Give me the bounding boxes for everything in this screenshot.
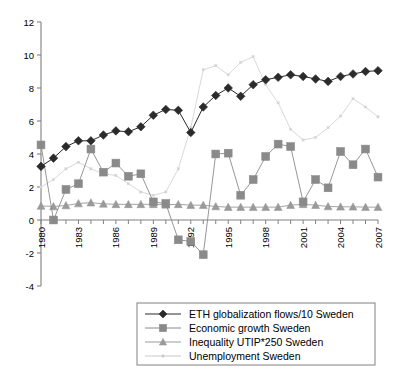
- data-point: [87, 137, 96, 146]
- data-point: [177, 168, 179, 170]
- x-tick-label: 2007: [373, 227, 384, 248]
- data-point: [274, 73, 283, 82]
- data-point: [314, 136, 316, 138]
- data-point: [274, 140, 282, 148]
- data-point: [327, 127, 329, 129]
- data-point: [286, 71, 295, 80]
- data-point: [324, 184, 332, 192]
- data-point: [224, 149, 232, 157]
- legend-item[interactable]: Unemployment Sweden: [145, 350, 301, 362]
- data-point: [115, 174, 117, 176]
- series-dot: [40, 56, 379, 197]
- data-point: [186, 128, 195, 137]
- data-point: [377, 116, 379, 118]
- x-tick-label: 1989: [148, 227, 159, 248]
- y-tick-label: 2: [29, 182, 34, 193]
- data-point: [224, 84, 233, 93]
- data-series-group: [37, 56, 383, 259]
- data-point: [212, 150, 220, 158]
- data-point: [240, 61, 242, 63]
- y-tick-label: 6: [29, 116, 34, 127]
- y-axis: 121086420-2-4: [23, 17, 41, 292]
- data-point: [374, 66, 383, 75]
- data-point: [87, 199, 95, 206]
- data-point: [261, 75, 270, 84]
- x-axis: 1980198319861989199219951998200120042007: [36, 220, 384, 248]
- data-point: [112, 127, 121, 136]
- legend-label: ETH globalization flows/10 Sweden: [189, 308, 354, 320]
- data-point: [336, 72, 345, 81]
- data-point: [349, 161, 357, 169]
- data-point: [149, 198, 157, 206]
- data-point: [324, 77, 333, 86]
- data-point: [52, 178, 54, 180]
- data-point: [374, 173, 382, 181]
- data-point: [127, 183, 129, 185]
- x-tick-label: 1998: [260, 227, 271, 248]
- data-point: [287, 143, 295, 151]
- legend-marker-square-icon: [159, 324, 166, 331]
- y-tick-label: 4: [29, 149, 34, 160]
- legend-marker-dot-icon: [162, 355, 164, 357]
- data-point: [252, 56, 254, 58]
- data-point: [50, 216, 58, 224]
- y-tick-label: -2: [26, 248, 34, 259]
- x-tick-label: 1983: [73, 227, 84, 248]
- data-point: [174, 236, 182, 244]
- data-point: [277, 102, 279, 104]
- data-point: [174, 106, 183, 115]
- data-point: [152, 194, 154, 196]
- data-point: [202, 69, 204, 71]
- data-point: [62, 186, 70, 194]
- data-point: [40, 186, 42, 188]
- data-point: [65, 168, 67, 170]
- data-point: [227, 74, 229, 76]
- x-tick-label: 1995: [223, 227, 234, 248]
- x-tick-label: 2001: [298, 227, 309, 248]
- data-point: [112, 159, 120, 167]
- data-point: [75, 180, 83, 188]
- data-point: [237, 191, 245, 199]
- data-point: [140, 191, 142, 193]
- y-tick-label: 10: [23, 50, 34, 61]
- data-point: [215, 65, 217, 67]
- series-square: [37, 140, 382, 258]
- data-point: [290, 128, 292, 130]
- data-point: [165, 191, 167, 193]
- data-point: [90, 168, 92, 170]
- y-tick-label: -4: [26, 281, 34, 292]
- chart-container: 121086420-2-4 19801983198619891992199519…: [0, 0, 403, 373]
- data-point: [99, 131, 108, 140]
- legend-label: Economic growth Sweden: [189, 322, 311, 334]
- data-point: [339, 115, 341, 117]
- data-point: [352, 98, 354, 100]
- y-tick-label: 0: [29, 215, 34, 226]
- data-point: [312, 176, 320, 184]
- legend-marker-diamond-icon: [159, 310, 167, 318]
- data-point: [74, 137, 83, 146]
- data-point: [162, 105, 171, 114]
- data-point: [362, 145, 370, 153]
- legend-item[interactable]: Economic growth Sweden: [145, 322, 311, 334]
- data-point: [364, 106, 366, 108]
- data-point: [302, 139, 304, 141]
- data-point: [311, 75, 320, 84]
- legend-item[interactable]: Inequality UTIP*250 Sweden: [145, 336, 323, 348]
- legend-label: Unemployment Sweden: [189, 350, 301, 362]
- data-point: [361, 67, 370, 76]
- data-point: [337, 148, 345, 156]
- data-point: [349, 70, 358, 79]
- x-tick-label: 1980: [36, 227, 47, 248]
- data-point: [162, 200, 170, 208]
- legend-item[interactable]: ETH globalization flows/10 Sweden: [145, 308, 354, 320]
- y-tick-label: 12: [23, 17, 34, 28]
- data-point: [187, 238, 195, 246]
- legend-label: Inequality UTIP*250 Sweden: [189, 336, 323, 348]
- data-point: [124, 172, 132, 180]
- data-point: [77, 161, 79, 163]
- data-point: [100, 168, 108, 176]
- data-point: [137, 170, 145, 178]
- line-chart: 121086420-2-4 19801983198619891992199519…: [0, 0, 403, 373]
- data-point: [124, 127, 133, 136]
- chart-legend: ETH globalization flows/10 SwedenEconomi…: [137, 303, 375, 365]
